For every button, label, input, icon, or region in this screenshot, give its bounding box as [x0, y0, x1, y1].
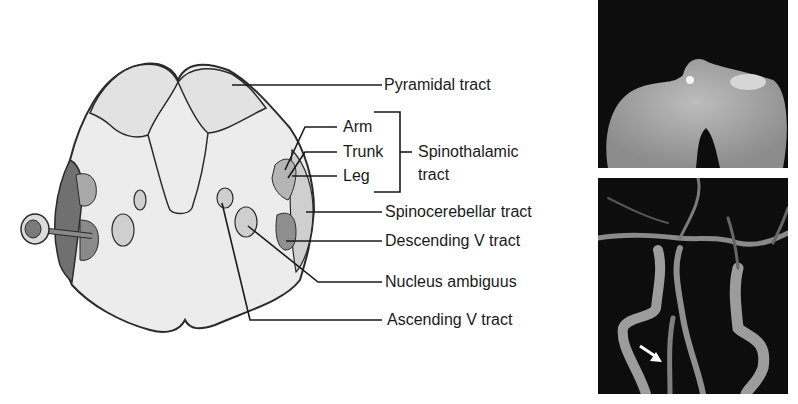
label-leg: Leg: [343, 167, 370, 185]
medulla-diagram: Pyramidal tract Arm Trunk Leg Spinothala…: [0, 0, 598, 404]
vessels: [598, 178, 788, 394]
descending-v-tract: [276, 213, 296, 250]
label-trunk: Trunk: [343, 143, 383, 161]
lesion-bright-spot: [686, 76, 694, 84]
medulla-signal: [606, 59, 787, 168]
label-spinothalamic: Spinothalamic: [418, 143, 519, 161]
mri-medulla-svg: [598, 0, 788, 168]
white-arrow-icon: [640, 346, 662, 362]
label-arm: Arm: [343, 118, 372, 136]
mri-dwi-image: [598, 0, 788, 168]
mra-image: [598, 178, 788, 394]
nucleus-left-small: [134, 190, 146, 210]
ascending-v-tract: [217, 188, 233, 208]
nucleus-ambiguus: [235, 207, 257, 237]
nucleus-left-large: [112, 214, 134, 246]
label-spinocerebellar-tract: Spinocerebellar tract: [385, 203, 532, 221]
medulla-cross-section: [0, 0, 598, 404]
label-spinothalamic-tract: tract: [418, 166, 449, 184]
left-tract-light: [76, 174, 96, 206]
mra-vessels-svg: [598, 178, 788, 394]
label-pyramidal-tract: Pyramidal tract: [384, 76, 491, 94]
label-ascending-v-tract: Ascending V tract: [387, 311, 512, 329]
label-nucleus-ambiguus: Nucleus ambiguus: [385, 273, 517, 291]
label-descending-v-tract: Descending V tract: [385, 232, 520, 250]
